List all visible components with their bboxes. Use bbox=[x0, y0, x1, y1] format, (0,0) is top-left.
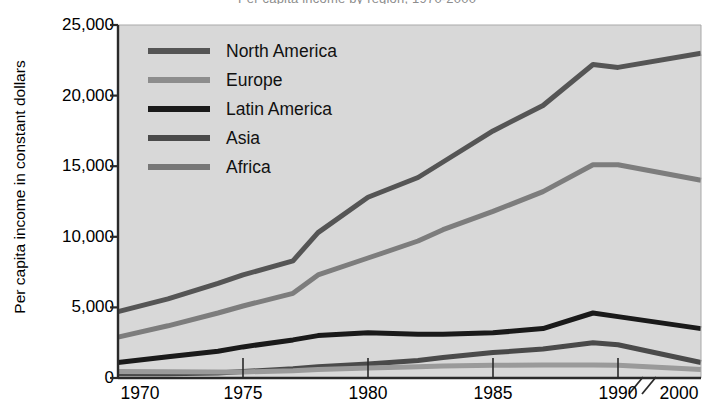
x-axis-tick-label: 1990 bbox=[599, 384, 638, 402]
legend-item-label: Latin America bbox=[226, 100, 332, 118]
legend-item-north-america[interactable]: North America bbox=[148, 36, 388, 65]
legend-line-swatch-icon bbox=[148, 106, 210, 112]
legend-item-latin-america[interactable]: Latin America bbox=[148, 94, 388, 123]
legend-item-europe[interactable]: Europe bbox=[148, 65, 388, 94]
axis-break-slash bbox=[642, 377, 656, 394]
legend-line-swatch-icon bbox=[148, 77, 210, 83]
x-axis-tick-label: 1975 bbox=[224, 384, 263, 402]
legend-item-asia[interactable]: Asia bbox=[148, 123, 388, 152]
x-axis-tick-label: 1985 bbox=[474, 384, 513, 402]
legend-item-label: Europe bbox=[226, 71, 282, 89]
legend-line-swatch-icon bbox=[148, 164, 210, 170]
chart-legend: North AmericaEuropeLatin AmericaAsiaAfri… bbox=[148, 36, 388, 181]
legend-item-africa[interactable]: Africa bbox=[148, 152, 388, 181]
legend-line-swatch-icon bbox=[148, 48, 210, 54]
legend-line-swatch-icon bbox=[148, 135, 210, 141]
x-axis-tick-label: 2000 bbox=[660, 384, 699, 402]
legend-item-label: North America bbox=[226, 42, 337, 60]
chart-figure: Per capita income by region, 1970-2000 P… bbox=[0, 0, 714, 418]
x-axis-tick-label: 1970 bbox=[121, 384, 160, 402]
x-axis-tick-label: 1980 bbox=[349, 384, 388, 402]
legend-item-label: Africa bbox=[226, 158, 271, 176]
legend-item-label: Asia bbox=[226, 129, 260, 147]
